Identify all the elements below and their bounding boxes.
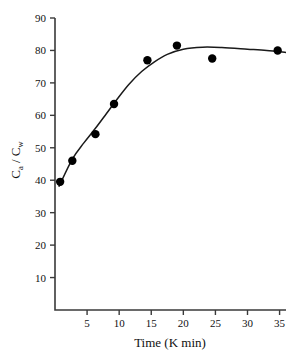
y-tick-label: 70 bbox=[35, 77, 47, 89]
fitted-curve bbox=[59, 47, 286, 187]
data-point bbox=[91, 130, 99, 138]
y-tick-label: 20 bbox=[35, 239, 47, 251]
chart-canvas: 5101520253035 102030405060708090 Time (K… bbox=[0, 0, 298, 358]
y-axis-tick-labels: 102030405060708090 bbox=[35, 12, 47, 284]
y-axis-numerator: C bbox=[8, 170, 23, 179]
data-points bbox=[56, 41, 282, 186]
x-axis-tick-labels: 5101520253035 bbox=[84, 317, 285, 329]
y-tick-label: 40 bbox=[35, 174, 47, 186]
x-tick-label: 15 bbox=[146, 317, 158, 329]
y-axis-title-text: Ca / Cw bbox=[8, 140, 25, 178]
y-tick-label: 60 bbox=[35, 109, 47, 121]
data-point bbox=[56, 178, 64, 186]
x-tick-label: 25 bbox=[210, 317, 222, 329]
data-point bbox=[208, 54, 216, 62]
y-axis-separator: / bbox=[8, 156, 23, 166]
data-point bbox=[110, 100, 118, 108]
x-axis-title: Time (K min) bbox=[134, 335, 206, 350]
y-tick-label: 50 bbox=[35, 142, 47, 154]
y-tick-label: 80 bbox=[35, 44, 47, 56]
data-point bbox=[173, 41, 181, 49]
y-tick-label: 10 bbox=[35, 272, 47, 284]
axis-lines bbox=[55, 18, 286, 310]
data-point bbox=[143, 56, 151, 64]
data-point bbox=[273, 46, 281, 54]
x-tick-label: 10 bbox=[114, 317, 126, 329]
y-tick-label: 90 bbox=[35, 12, 47, 24]
x-tick-label: 35 bbox=[274, 317, 286, 329]
y-axis-title: Ca / Cw bbox=[8, 140, 25, 178]
y-axis-denominator-subscript: w bbox=[15, 140, 25, 147]
y-tick-label: 30 bbox=[35, 207, 47, 219]
y-axis-denominator: C bbox=[8, 147, 23, 156]
data-point bbox=[68, 157, 76, 165]
x-tick-label: 30 bbox=[242, 317, 254, 329]
x-tick-label: 5 bbox=[84, 317, 90, 329]
chart-figure: 5101520253035 102030405060708090 Time (K… bbox=[0, 0, 298, 358]
x-tick-label: 20 bbox=[178, 317, 190, 329]
